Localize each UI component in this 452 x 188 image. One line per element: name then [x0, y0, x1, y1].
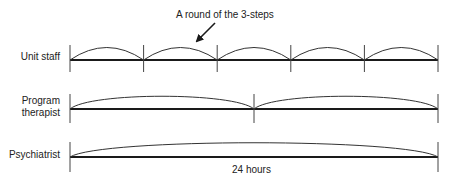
arcs [70, 143, 438, 157]
timeline-unit-staff [70, 45, 438, 72]
timeline-program-therapist [70, 94, 438, 123]
arrow-down-left-icon [197, 23, 215, 41]
timeline-diagram [0, 0, 452, 188]
timeline-psychiatrist [70, 142, 438, 172]
ticks [70, 45, 438, 72]
arcs [70, 48, 438, 61]
